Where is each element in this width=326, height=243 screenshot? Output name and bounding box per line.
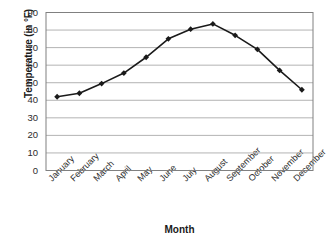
- data-point-marker: [188, 26, 194, 32]
- data-point-marker: [210, 21, 216, 27]
- data-point-marker: [54, 94, 60, 100]
- data-point-marker: [76, 90, 82, 96]
- plot-frame: [46, 13, 313, 171]
- data-point-marker: [99, 81, 105, 87]
- temperature-line-chart: Temperature (in °F) 0102030405060708090 …: [0, 0, 326, 243]
- data-line: [57, 24, 302, 97]
- plot-area: [0, 0, 326, 243]
- x-axis-title: Month: [46, 224, 313, 235]
